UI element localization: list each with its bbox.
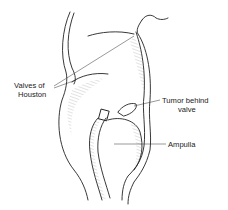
label-tumor-line1: Tumor behind (162, 96, 209, 105)
label-ampulla: Ampulla (168, 140, 196, 149)
rectum-right-top-curve (142, 15, 168, 20)
ampulla-shading (130, 122, 143, 170)
upper-valve-fold (88, 32, 134, 36)
label-valves-line1: Valves of (14, 81, 46, 90)
leader-tumor (134, 100, 160, 106)
rectum-outer-right-wall (128, 20, 151, 204)
proctoscope-tip (99, 109, 109, 121)
tumor (118, 103, 136, 116)
middle-valve-fold (72, 73, 108, 82)
rectum-illustration: Valves of Houston Tumor behind valve Amp… (0, 0, 228, 210)
leader-valves-upper (54, 36, 134, 86)
label-tumor-line2: valve (178, 105, 196, 114)
proctoscope-shading (89, 118, 106, 200)
middle-valve-shading (68, 78, 105, 136)
label-valves-line2: Houston (18, 90, 46, 99)
upper-valve-shading (130, 36, 145, 92)
